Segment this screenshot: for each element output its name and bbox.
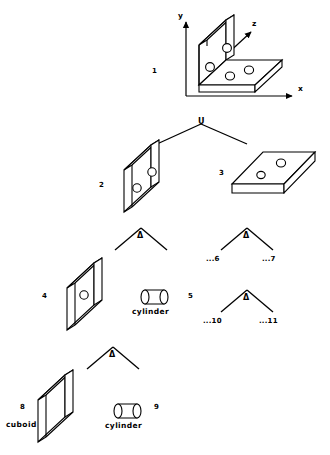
node-4-solid — [67, 258, 102, 330]
node-5-number: 5 — [188, 293, 193, 300]
node-3-hole-b — [276, 159, 285, 167]
node-3-hole-a — [257, 171, 265, 178]
node-1-group — [186, 15, 292, 96]
difference-operator-right-lower: Δ — [243, 294, 249, 302]
node-3-solid — [232, 152, 315, 193]
axis-label-x: x — [298, 85, 303, 93]
node-6-number: ...6 — [206, 256, 220, 263]
node-1-hole-b — [223, 44, 232, 53]
node-2-solid — [124, 140, 159, 212]
union-operator-root: U — [198, 118, 205, 126]
node-1-hole-d — [244, 66, 253, 74]
node-2-hole-a — [133, 184, 141, 192]
node-2-hole-b — [148, 168, 156, 176]
node-1-number: 1 — [152, 68, 157, 75]
node-9-number: 9 — [154, 404, 159, 411]
node-5-solid — [141, 290, 168, 304]
axis-label-z: z — [252, 20, 257, 28]
node-11-number: ...11 — [259, 318, 278, 325]
node-1-solid — [199, 15, 282, 92]
node-9-name: cylinder — [105, 422, 142, 430]
node-2-number: 2 — [99, 182, 104, 189]
difference-operator-right-upper: Δ — [243, 232, 249, 240]
node-8-solid — [38, 370, 73, 442]
node-5-name: cylinder — [132, 308, 169, 316]
axis-label-y: y — [178, 12, 183, 20]
node-9-solid — [114, 404, 141, 418]
diagram-vector-layer — [0, 0, 330, 455]
node-4-number: 4 — [42, 293, 47, 300]
node-1-hole-a — [206, 63, 215, 72]
union-branch-edges — [157, 124, 247, 144]
difference-operator-bottom: Δ — [109, 351, 115, 359]
node-7-number: ...7 — [262, 256, 276, 263]
csg-tree-diagram: y x z 1 U 2 3 Δ Δ Δ Δ 4 5 cylinder ...6 … — [0, 0, 330, 455]
node-1-hole-c — [225, 72, 234, 80]
node-10-number: ...10 — [203, 318, 222, 325]
node-8-number: 8 — [20, 404, 25, 411]
difference-operator-left: Δ — [137, 232, 143, 240]
node-3-number: 3 — [219, 170, 224, 177]
node-8-name: cuboid — [6, 421, 37, 429]
node-4-hole-a — [80, 291, 88, 299]
